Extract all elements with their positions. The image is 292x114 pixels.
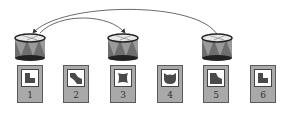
drum-icon: [106, 32, 140, 62]
spool-icon: [116, 71, 130, 85]
card-4: 4: [157, 65, 183, 103]
shape-frame: [254, 69, 272, 87]
drum-icon: [200, 32, 234, 62]
shape-frame: [114, 69, 132, 87]
shape-frame: [21, 69, 39, 87]
arrow-1-to-3: [40, 18, 125, 33]
shape-frame: [67, 69, 85, 87]
card-6: 6: [250, 65, 276, 103]
drum-icon: [13, 32, 47, 62]
card-number: 6: [251, 89, 275, 101]
card-number: 2: [64, 89, 88, 101]
card-number: 1: [18, 89, 42, 101]
l-shape-icon: [23, 71, 37, 85]
notched-block-icon: [209, 71, 223, 85]
card-2: 2: [63, 65, 89, 103]
card-3: 3: [110, 65, 136, 103]
l-shape-icon: [256, 71, 270, 85]
card-number: 3: [111, 89, 135, 101]
cat-head-icon: [163, 71, 177, 85]
card-5: 5: [203, 65, 229, 103]
card-1: 1: [17, 65, 43, 103]
shape-frame: [161, 69, 179, 87]
card-number: 4: [158, 89, 182, 101]
bent-block-icon: [69, 71, 83, 85]
shape-frame: [207, 69, 225, 87]
card-number: 5: [204, 89, 228, 101]
